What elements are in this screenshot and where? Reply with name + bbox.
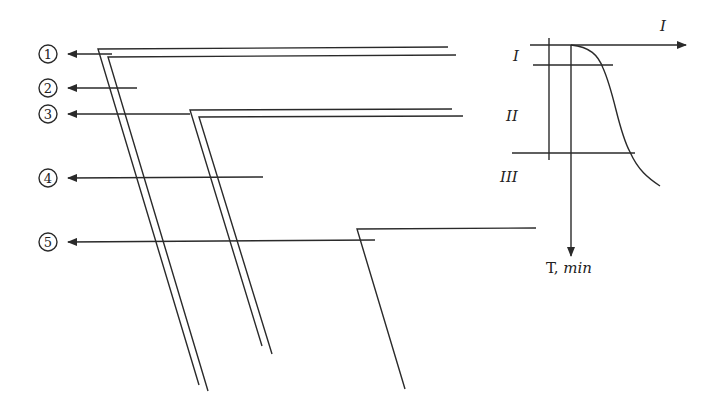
zone-label-2: II (505, 107, 519, 125)
layer-labels: 1 2 3 4 5 (39, 45, 57, 251)
layer-label-5: 5 (39, 233, 57, 251)
front-1 (98, 47, 456, 391)
layer-2-number: 2 (44, 81, 52, 96)
graph: I I II III T, min (499, 17, 686, 277)
layer-label-3: 3 (39, 105, 57, 123)
arrow-5 (68, 240, 375, 242)
layer-label-2: 2 (39, 79, 57, 97)
layer-1-number: 1 (44, 47, 52, 62)
front-3 (357, 228, 536, 389)
layer-5-number: 5 (44, 235, 52, 250)
arrow-4 (68, 177, 263, 178)
layer-4-number: 4 (44, 171, 52, 186)
curve (571, 45, 660, 186)
zone-label-1: I (512, 47, 520, 65)
layer-label-4: 4 (39, 169, 57, 187)
zone-label-3: III (499, 168, 519, 186)
diagram-canvas: 1 2 3 4 5 (0, 0, 714, 404)
x-axis-label: I (659, 17, 667, 35)
layer-label-1: 1 (39, 45, 57, 63)
layer-3-number: 3 (44, 107, 52, 122)
y-axis-label: T, min (546, 259, 592, 277)
front-2 (190, 109, 463, 354)
